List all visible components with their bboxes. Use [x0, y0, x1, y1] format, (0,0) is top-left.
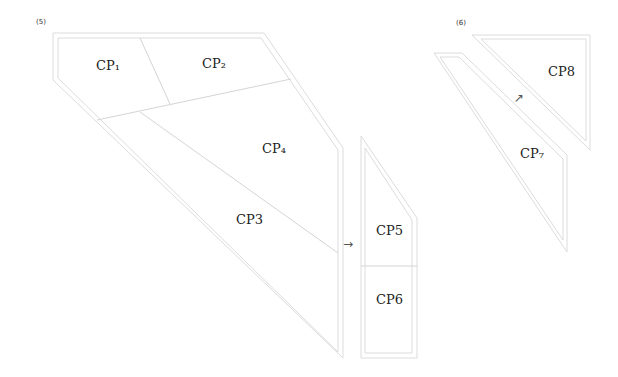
label-cp3: CP3 [236, 212, 263, 227]
label-cp4: CP₄ [262, 141, 286, 156]
cp7-outer-outline [434, 53, 567, 252]
step-5-label: (5) [36, 18, 46, 26]
arrow-up-right-icon: ↗ [514, 91, 524, 105]
cp5-cp6-outer-outline [361, 136, 417, 358]
label-cp7: CP₇ [520, 146, 544, 161]
main-piece-inner-outline [58, 38, 338, 352]
label-cp6: CP6 [376, 292, 403, 307]
cp5-cp6-inner-outline [365, 148, 412, 353]
main-piece [53, 33, 343, 358]
diagram-canvas: (5) CP₁ CP₂ CP₄ CP3 → CP5 CP6 (6) CP8 CP… [0, 0, 618, 377]
cp8-outer-outline [472, 35, 590, 150]
divider-cp3-cp4 [140, 112, 338, 253]
label-cp2: CP₂ [202, 56, 226, 71]
cp8-piece [472, 35, 590, 150]
label-cp8: CP8 [548, 64, 575, 79]
cp5-cp6-piece [361, 136, 417, 358]
cp7-inner-outline [440, 57, 563, 240]
divider-top-bottom [97, 79, 291, 120]
step-6-label: (6) [456, 19, 466, 27]
label-cp1: CP₁ [96, 58, 120, 73]
label-cp5: CP5 [376, 223, 403, 238]
arrow-right-icon: → [343, 237, 353, 251]
divider-cp1-cp2 [140, 38, 170, 104]
cp7-piece [434, 53, 567, 252]
main-piece-outer-outline [53, 33, 343, 358]
cp8-inner-outline [481, 39, 586, 141]
